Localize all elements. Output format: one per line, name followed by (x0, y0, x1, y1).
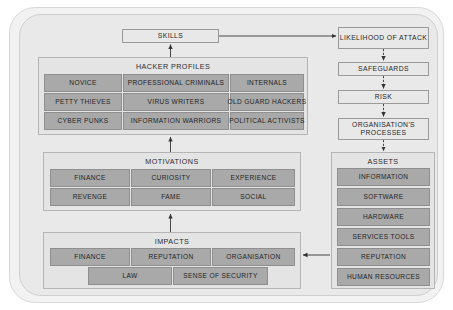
impacts-title: IMPACTS (44, 237, 300, 246)
hacker-profile-cell: INFORMATION WARRIORS (123, 112, 229, 130)
asset-cell: SERVICES TOOLS (337, 228, 430, 246)
asset-cell: HUMAN RESOURCES (337, 268, 430, 286)
motivation-cell: SOCIAL (212, 188, 295, 206)
organisations-processes-label: ORGANISATION'S PROCESSES (339, 121, 428, 138)
assets-panel: ASSETS INFORMATION SOFTWARE HARDWARE SER… (331, 152, 435, 289)
motivations-title: MOTIVATIONS (44, 157, 300, 166)
hacker-profile-cell: PROFESSIONAL CRIMINALS (123, 74, 229, 92)
risk-label: RISK (375, 93, 392, 101)
skills-label: SKILLS (158, 32, 183, 40)
motivations-panel: MOTIVATIONS FINANCE CURIOSITY EXPERIENCE… (43, 152, 301, 211)
hacker-profile-cell: CYBER PUNKS (44, 112, 122, 130)
impact-cell: FINANCE (50, 248, 130, 266)
hacker-profile-cell: OLD GUARD HACKERS (230, 93, 304, 111)
asset-cell: SOFTWARE (337, 188, 430, 206)
diagram-canvas: SKILLS HACKER PROFILES NOVICE PROFESSION… (0, 0, 453, 310)
hacker-profiles-title: HACKER PROFILES (39, 62, 307, 71)
likelihood-of-attack-node: LIKELIHOOD OF ATTACK (338, 27, 429, 49)
asset-cell: HARDWARE (337, 208, 430, 226)
motivation-cell: FAME (131, 188, 211, 206)
impact-cell: REPUTATION (131, 248, 211, 266)
asset-cell: INFORMATION (337, 168, 430, 186)
safeguards-node: SAFEGUARDS (338, 62, 429, 76)
assets-title: ASSETS (332, 157, 434, 166)
organisations-processes-node: ORGANISATION'S PROCESSES (338, 118, 429, 140)
motivation-cell: CURIOSITY (131, 169, 211, 187)
asset-cell: REPUTATION (337, 248, 430, 266)
hacker-profile-cell: VIRUS WRITERS (123, 93, 229, 111)
skills-box: SKILLS (122, 29, 219, 43)
motivation-cell: FINANCE (50, 169, 130, 187)
likelihood-of-attack-label: LIKELIHOOD OF ATTACK (340, 34, 427, 42)
hacker-profiles-panel: HACKER PROFILES NOVICE PROFESSIONAL CRIM… (38, 57, 308, 135)
hacker-profile-cell: NOVICE (44, 74, 122, 92)
hacker-profile-cell: PETTY THIEVES (44, 93, 122, 111)
hacker-profile-cell: POLITICAL ACTIVISTS (230, 112, 304, 130)
impact-cell: LAW (88, 267, 172, 285)
impacts-panel: IMPACTS FINANCE REPUTATION ORGANISATION … (43, 232, 301, 289)
risk-node: RISK (338, 90, 429, 104)
safeguards-label: SAFEGUARDS (358, 65, 409, 73)
hacker-profile-cell: INTERNALS (230, 74, 304, 92)
motivation-cell: EXPERIENCE (212, 169, 295, 187)
impact-cell: ORGANISATION (212, 248, 295, 266)
impact-cell: SENSE OF SECURITY (173, 267, 268, 285)
motivation-cell: REVENGE (50, 188, 130, 206)
